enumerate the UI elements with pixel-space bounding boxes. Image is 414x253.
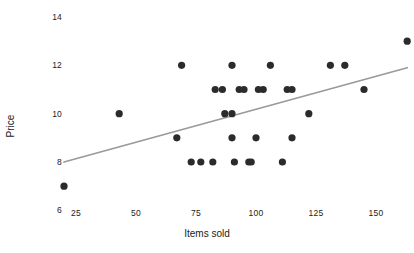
data-point <box>173 134 180 141</box>
data-point <box>60 183 67 190</box>
data-point <box>178 62 185 69</box>
data-point <box>327 62 334 69</box>
y-axis-title: Price <box>5 115 16 138</box>
scatter-plot-figure: 68101214 255075100125150 Price Items sol… <box>0 0 414 253</box>
x-tick-label: 150 <box>369 208 384 218</box>
data-point <box>248 158 255 165</box>
data-point <box>279 158 286 165</box>
data-point <box>240 86 247 93</box>
x-tick-label: 125 <box>309 208 324 218</box>
y-tick-label: 12 <box>0 60 62 70</box>
data-point <box>360 86 367 93</box>
data-point <box>219 86 226 93</box>
data-point <box>341 62 348 69</box>
data-point <box>228 62 235 69</box>
data-point <box>188 158 195 165</box>
data-point <box>228 110 235 117</box>
data-point <box>221 110 228 117</box>
x-tick-label: 100 <box>249 208 264 218</box>
data-point <box>116 110 123 117</box>
trendline-segment <box>64 68 407 162</box>
data-point <box>260 86 267 93</box>
y-tick-label: 6 <box>0 205 62 215</box>
y-tick-label: 14 <box>0 12 62 22</box>
data-point <box>252 134 259 141</box>
data-point <box>404 38 411 45</box>
trendline <box>64 68 407 162</box>
data-point <box>267 62 274 69</box>
x-tick-label: 75 <box>191 208 201 218</box>
data-point <box>288 134 295 141</box>
data-point <box>288 86 295 93</box>
plot-area <box>0 0 414 253</box>
data-points <box>60 38 410 190</box>
data-point <box>305 110 312 117</box>
x-tick-label: 50 <box>131 208 141 218</box>
data-point <box>209 158 216 165</box>
x-axis-title: Items sold <box>0 228 414 239</box>
x-tick-label: 25 <box>71 208 81 218</box>
data-point <box>197 158 204 165</box>
y-tick-label: 8 <box>0 157 62 167</box>
data-point <box>212 86 219 93</box>
data-point <box>228 134 235 141</box>
data-point <box>231 158 238 165</box>
